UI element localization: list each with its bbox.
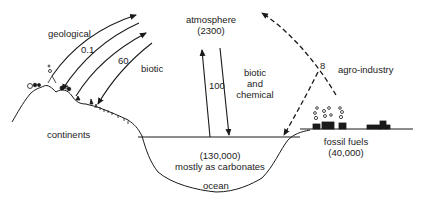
ocean-exchange-value: 100 — [209, 80, 225, 91]
agro-industry-label: agro-industry — [338, 64, 393, 75]
agro-industry-flow-value: 8 — [320, 60, 325, 71]
ocean-amount: (130,000) — [170, 150, 270, 161]
fossil-fuels-box: fossil fuels (40,000) — [316, 136, 376, 158]
atmosphere-label: atmosphere — [176, 14, 246, 25]
ocean-box: (130,000) mostly as carbonates — [170, 150, 270, 172]
atmosphere-box: atmosphere (2300) — [176, 14, 246, 36]
geological-label: geological — [48, 28, 91, 39]
exchange-label-line1: biotic — [230, 67, 280, 78]
ocean-exchange-label: biotic and chemical — [230, 67, 280, 100]
continents-label: continents — [47, 129, 90, 140]
atmosphere-to-ocean-arrow — [220, 48, 229, 135]
atmosphere-amount: (2300) — [176, 25, 246, 36]
geological-flow-value: 0.1 — [81, 44, 94, 55]
fossil-fuels-amount: (40,000) — [316, 147, 376, 158]
ocean-to-atmosphere-arrow — [202, 50, 210, 137]
exchange-label-line3: chemical — [230, 89, 280, 100]
ocean-label: ocean — [203, 180, 229, 191]
fossil-fuels-label: fossil fuels — [316, 136, 376, 147]
biotic-label: biotic — [141, 63, 163, 74]
biotic-flow-value: 60 — [118, 55, 129, 66]
exchange-label-line2: and — [230, 78, 280, 89]
ocean-note: mostly as carbonates — [170, 161, 270, 172]
biotic-up-arrow — [76, 33, 146, 96]
vegetation-icons — [28, 65, 129, 124]
factory-icons — [313, 107, 390, 129]
